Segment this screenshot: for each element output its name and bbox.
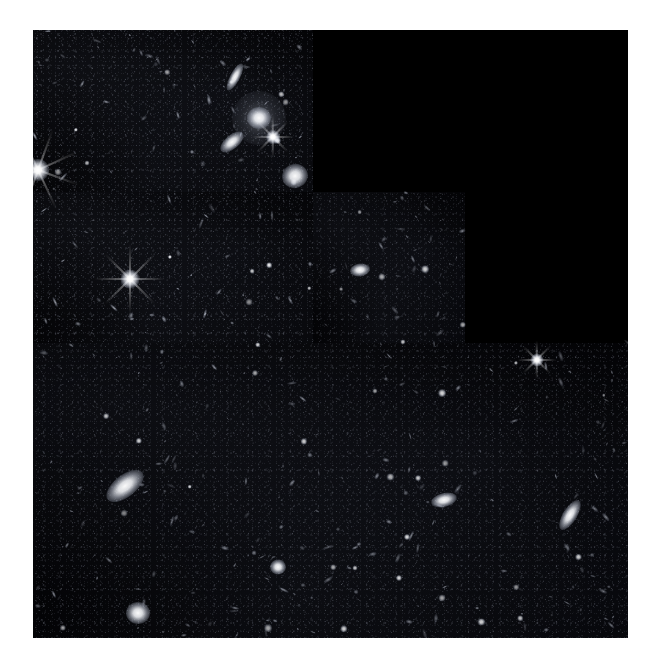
field-galaxy bbox=[544, 362, 548, 371]
field-galaxy bbox=[340, 476, 344, 480]
field-galaxy bbox=[365, 315, 370, 320]
field-galaxy bbox=[231, 606, 239, 611]
diffraction-spike bbox=[272, 116, 274, 158]
elliptical-galaxy-halo-top-halo bbox=[232, 91, 286, 145]
field-galaxy bbox=[394, 553, 401, 563]
field-galaxy bbox=[415, 310, 420, 311]
field-galaxy bbox=[602, 512, 612, 522]
field-galaxy bbox=[543, 628, 548, 632]
field-galaxy bbox=[272, 555, 276, 557]
diffraction-spike bbox=[258, 122, 289, 153]
field-galaxy bbox=[172, 514, 179, 521]
field-galaxy bbox=[149, 313, 155, 316]
field-galaxy bbox=[161, 315, 168, 323]
field-galaxy bbox=[194, 620, 197, 623]
field-galaxy bbox=[454, 384, 462, 392]
field-galaxy bbox=[51, 492, 53, 496]
field-galaxy bbox=[155, 462, 162, 465]
field-galaxy bbox=[310, 630, 316, 634]
field-galaxy bbox=[287, 296, 294, 305]
field-star bbox=[300, 438, 306, 444]
field-galaxy bbox=[589, 552, 595, 557]
field-star bbox=[282, 99, 289, 106]
field-galaxy bbox=[144, 407, 150, 413]
field-galaxy bbox=[129, 352, 133, 360]
field-galaxy bbox=[598, 588, 608, 595]
field-galaxy bbox=[51, 590, 57, 598]
field-galaxy bbox=[383, 366, 388, 368]
field-galaxy bbox=[51, 296, 59, 307]
field-star bbox=[121, 510, 128, 517]
field-star bbox=[60, 624, 66, 630]
field-galaxy bbox=[219, 390, 221, 394]
field-galaxy bbox=[395, 275, 401, 277]
field-galaxy bbox=[223, 253, 230, 259]
field-star bbox=[396, 575, 402, 581]
field-galaxy bbox=[458, 228, 466, 234]
field-galaxy bbox=[255, 536, 261, 543]
field-galaxy bbox=[403, 395, 406, 397]
diffraction-spike bbox=[105, 254, 156, 305]
field-galaxy bbox=[579, 566, 585, 574]
field-galaxy bbox=[242, 294, 244, 297]
diffraction-spike bbox=[105, 254, 156, 305]
image-viewer: Deep field astronomical exposure showing… bbox=[0, 0, 653, 672]
field-galaxy bbox=[76, 492, 79, 494]
field-galaxy bbox=[122, 231, 126, 235]
field-galaxy bbox=[442, 316, 446, 320]
field-galaxy bbox=[398, 542, 405, 549]
field-galaxy bbox=[407, 530, 415, 542]
field-galaxy bbox=[202, 309, 207, 320]
field-galaxy bbox=[398, 382, 406, 388]
field-galaxy bbox=[254, 187, 257, 190]
field-star bbox=[250, 269, 255, 274]
field-galaxy bbox=[246, 120, 250, 123]
field-galaxy bbox=[600, 420, 606, 428]
field-galaxy bbox=[243, 512, 251, 519]
field-galaxy bbox=[374, 473, 380, 481]
field-galaxy bbox=[607, 621, 615, 629]
field-galaxy bbox=[203, 213, 210, 219]
field-galaxy bbox=[523, 622, 527, 632]
field-galaxy bbox=[135, 588, 142, 590]
field-galaxy bbox=[159, 361, 164, 364]
field-galaxy bbox=[166, 482, 177, 489]
field-galaxy bbox=[193, 84, 196, 87]
field-galaxy bbox=[230, 106, 236, 115]
field-star bbox=[188, 484, 193, 489]
field-galaxy bbox=[344, 261, 349, 270]
field-galaxy bbox=[488, 367, 494, 372]
field-galaxy bbox=[44, 30, 51, 32]
field-star bbox=[387, 473, 394, 480]
field-galaxy bbox=[229, 609, 239, 613]
field-star bbox=[373, 389, 378, 394]
field-galaxy bbox=[95, 297, 102, 304]
field-galaxy bbox=[189, 274, 193, 278]
field-galaxy bbox=[297, 135, 303, 140]
field-galaxy bbox=[219, 309, 225, 317]
field-galaxy bbox=[135, 216, 139, 218]
field-star bbox=[252, 370, 258, 376]
field-galaxy bbox=[222, 85, 226, 89]
field-galaxy bbox=[520, 613, 523, 616]
field-galaxy bbox=[264, 577, 271, 582]
field-galaxy bbox=[436, 310, 440, 317]
field-galaxy bbox=[593, 472, 599, 480]
field-galaxy bbox=[380, 236, 387, 243]
diffraction-star-upper-right-core bbox=[266, 130, 280, 144]
field-galaxy bbox=[145, 53, 154, 60]
field-galaxy bbox=[258, 555, 265, 560]
field-galaxy bbox=[404, 235, 409, 241]
field-galaxy bbox=[226, 417, 230, 420]
field-galaxy bbox=[395, 287, 399, 291]
field-galaxy bbox=[105, 556, 113, 564]
field-galaxy bbox=[39, 351, 49, 356]
field-galaxy bbox=[314, 510, 319, 513]
field-galaxy bbox=[352, 546, 360, 552]
field-galaxy bbox=[144, 332, 147, 334]
field-galaxy bbox=[229, 320, 234, 324]
field-galaxy bbox=[111, 526, 114, 528]
field-galaxy bbox=[241, 422, 243, 425]
field-galaxy bbox=[582, 445, 586, 455]
field-galaxy bbox=[453, 484, 463, 495]
